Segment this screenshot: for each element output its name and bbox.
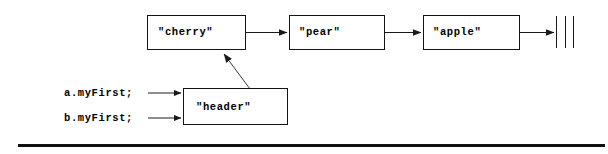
diagram-canvas: "cherry" "pear" "apple" "header" a.myFir… <box>0 0 608 154</box>
node-cherry-label: "cherry" <box>158 26 213 38</box>
node-header-label: "header" <box>196 101 251 113</box>
node-apple-label: "apple" <box>433 26 481 38</box>
null-terminator-bar-3 <box>573 16 574 48</box>
node-pear-label: "pear" <box>299 26 340 38</box>
edge-header-to-cherry <box>224 54 250 89</box>
null-terminator-bar-2 <box>565 16 566 48</box>
reference-label-b-myfirst: b.myFirst; <box>64 112 133 124</box>
reference-label-a-myfirst: a.myFirst; <box>64 87 133 99</box>
null-terminator-bar-1 <box>556 16 557 48</box>
bottom-divider <box>18 144 605 147</box>
